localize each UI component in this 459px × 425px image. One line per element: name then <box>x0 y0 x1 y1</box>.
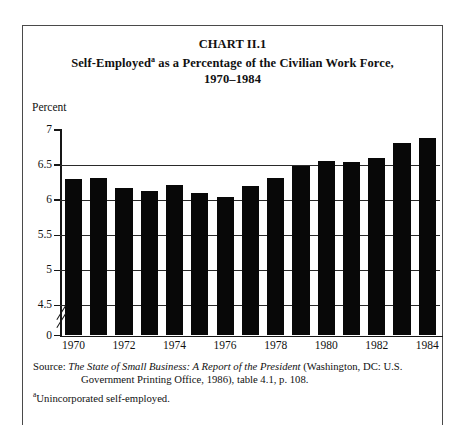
chart-title-main: Self-Employed <box>71 56 151 70</box>
footnote-text: Unincorporated self-employed. <box>36 391 170 403</box>
source-prefix: Source: <box>33 360 68 372</box>
source-title-italic: The State of Small Business: A Report of… <box>68 360 300 372</box>
source-line-1: Source: The State of Small Business: A R… <box>33 360 433 373</box>
source-line-2: Government Printing Office, 1986), table… <box>33 373 433 386</box>
source-publisher: (Washington, DC: U.S. <box>301 360 403 372</box>
chart-title-block: CHART II.1 Self-Employeda as a Percentag… <box>22 36 443 87</box>
y-axis-unit-label: Percent <box>32 101 66 113</box>
page-title: Self-Employeda as a Percentage of the Ci… <box>22 52 443 71</box>
footnote-a: aUnincorporated self-employed. <box>33 388 433 405</box>
chart-title-years: 1970–1984 <box>22 71 443 87</box>
chart-title-rest: as a Percentage of the Civilian Work For… <box>155 56 394 70</box>
chart-number: CHART II.1 <box>22 36 443 52</box>
source-note-block: Source: The State of Small Business: A R… <box>33 360 433 405</box>
